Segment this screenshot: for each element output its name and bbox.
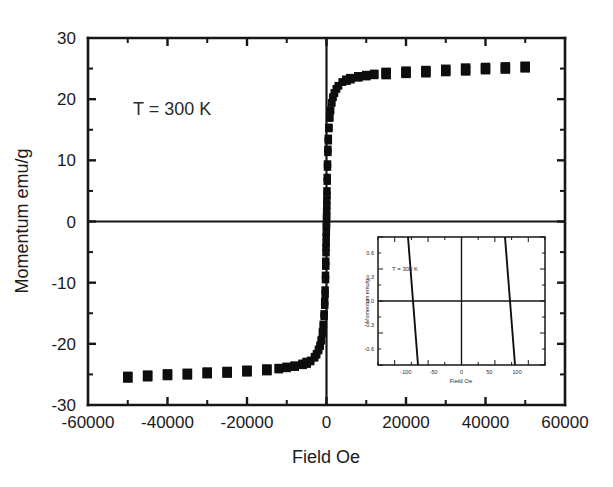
data-point — [323, 202, 331, 210]
data-point — [370, 70, 379, 79]
data-point — [321, 291, 329, 299]
data-point — [362, 71, 371, 80]
x-tick-label: -60000 — [62, 413, 115, 432]
inset-y-tick-label: -0.6 — [365, 346, 374, 352]
y-tick-label: -30 — [51, 396, 76, 415]
data-point — [326, 114, 334, 122]
data-point — [381, 68, 391, 79]
inset-temperature-annotation: T = 300 K — [392, 266, 418, 272]
inset-y-axis-title: Momentum emu/g — [364, 279, 370, 323]
data-point — [283, 363, 292, 372]
x-axis-title: Field Oe — [292, 447, 360, 467]
x-tick-label: 0 — [322, 413, 331, 432]
data-point — [481, 63, 491, 73]
data-point — [324, 163, 332, 171]
data-point — [501, 62, 511, 73]
y-tick-label: 30 — [57, 29, 76, 48]
data-point — [323, 229, 331, 237]
data-point — [262, 365, 272, 376]
inset-x-tick-label: 100 — [513, 369, 522, 375]
y-tick-label: -20 — [51, 335, 76, 354]
data-point — [222, 367, 232, 378]
data-point — [322, 249, 330, 257]
data-point — [242, 366, 252, 377]
data-point — [163, 370, 173, 381]
data-point — [320, 313, 328, 321]
data-point — [323, 221, 331, 229]
data-point — [321, 302, 329, 310]
inset-x-tick-label: 0 — [460, 369, 463, 375]
data-point — [461, 63, 471, 73]
data-point — [441, 65, 451, 76]
data-point — [322, 239, 330, 247]
data-point — [320, 322, 328, 330]
data-point — [323, 191, 331, 199]
inset-x-tick-label: -100 — [400, 369, 411, 375]
data-point — [323, 212, 331, 220]
x-tick-label: -40000 — [141, 413, 194, 432]
data-point — [323, 177, 331, 185]
inset-x-axis-title: Field Oe — [450, 378, 473, 384]
data-point — [325, 125, 333, 133]
data-point — [183, 369, 193, 380]
hysteresis-plot: -60000-40000-200000200004000060000 -30-2… — [0, 0, 613, 487]
x-tick-label: -20000 — [221, 413, 274, 432]
x-tick-label: 40000 — [462, 413, 509, 432]
data-point — [318, 337, 326, 345]
data-point — [319, 330, 327, 338]
data-point — [123, 372, 133, 383]
inset-y-tick-label: 0.6 — [366, 250, 374, 256]
y-axis-title: Momentum emu/g — [12, 148, 32, 293]
data-point — [421, 66, 431, 77]
data-point — [401, 66, 411, 77]
y-tick-label: 0 — [67, 213, 76, 232]
data-point — [325, 137, 333, 145]
inset-x-tick-label: 50 — [486, 369, 492, 375]
data-point — [346, 74, 355, 83]
magnetization-hysteresis-figure: -60000-40000-200000200004000060000 -30-2… — [0, 0, 613, 487]
inset-x-tick-label: -50 — [430, 369, 438, 375]
inset-chart: -0.6-0.30.00.30.6 -100-50050100 T = 300 … — [364, 237, 545, 384]
data-point — [203, 368, 213, 379]
y-tick-label: 10 — [57, 151, 76, 170]
data-point — [322, 262, 330, 270]
data-point — [322, 276, 330, 284]
y-tick-label: 20 — [57, 90, 76, 109]
data-point — [290, 362, 299, 371]
x-tick-label: 60000 — [541, 413, 588, 432]
data-point — [354, 72, 363, 81]
temperature-annotation: T = 300 K — [133, 99, 211, 119]
data-point — [143, 371, 153, 382]
data-point — [327, 107, 335, 115]
data-point — [275, 364, 284, 373]
data-point — [324, 149, 332, 157]
data-point — [521, 61, 531, 72]
x-tick-label: 20000 — [382, 413, 429, 432]
y-tick-label: -10 — [51, 274, 76, 293]
